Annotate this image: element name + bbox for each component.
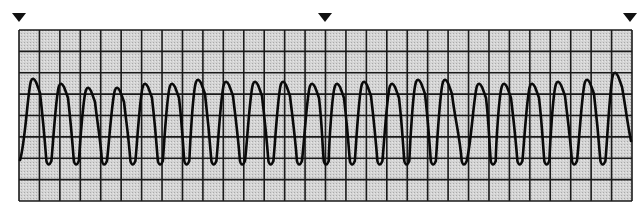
ecg-rhythm-strip: [0, 0, 637, 203]
time-marker-middle-icon: [318, 13, 332, 22]
time-markers: [12, 13, 637, 22]
time-marker-right-icon: [623, 13, 637, 22]
time-marker-left-icon: [12, 13, 26, 22]
